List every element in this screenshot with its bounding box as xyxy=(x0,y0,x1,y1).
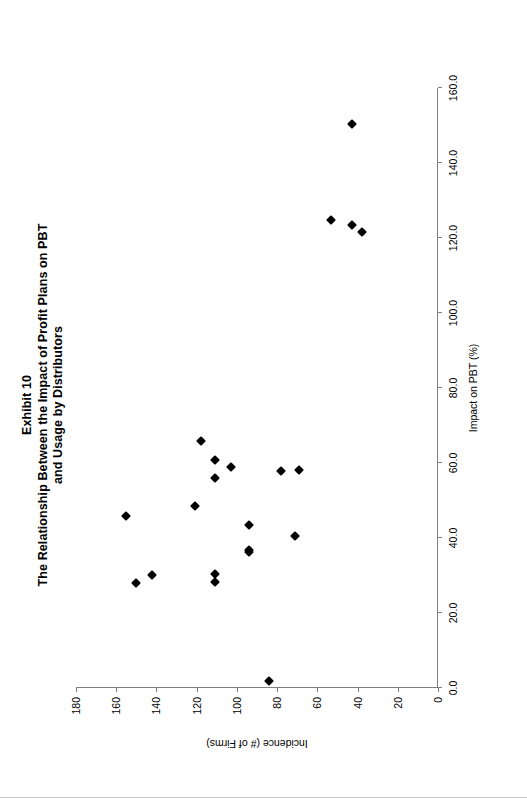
x-axis-tick xyxy=(438,312,442,313)
x-axis-title: Impact on PBT (%) xyxy=(467,344,479,433)
x-axis-tick-label: 100.0 xyxy=(447,300,459,326)
x-axis-tick-label: 40.0 xyxy=(447,528,459,548)
chart-title-line-1: Exhibit 10 xyxy=(20,15,36,795)
data-point-marker xyxy=(276,466,286,476)
data-point-marker xyxy=(209,455,219,465)
y-axis-tick xyxy=(397,688,398,692)
data-point-marker xyxy=(121,511,131,521)
y-axis-line xyxy=(76,687,438,688)
y-axis-tick-label: 180 xyxy=(70,697,82,715)
page-canvas: Exhibit 10 The Relationship Between the … xyxy=(0,0,527,810)
y-axis-title: Incidence (# of Firms) xyxy=(206,738,308,750)
x-axis-tick xyxy=(438,162,442,163)
data-point-marker xyxy=(225,462,235,472)
y-axis-tick xyxy=(76,688,77,692)
data-point-marker xyxy=(209,473,219,483)
chart-title-line-3: and Usage by Distributors xyxy=(51,15,67,795)
data-point-marker xyxy=(131,578,141,588)
y-axis-tick-label: 0 xyxy=(432,697,444,703)
x-axis-tick-label: 80.0 xyxy=(447,378,459,398)
x-axis-tick xyxy=(438,387,442,388)
y-axis-tick-label: 20 xyxy=(391,697,403,709)
y-axis-tick-label: 60 xyxy=(311,697,323,709)
data-point-marker xyxy=(264,676,274,686)
y-axis-tick xyxy=(317,688,318,692)
y-axis-tick-label: 160 xyxy=(110,697,122,715)
x-axis-tick xyxy=(438,462,442,463)
y-axis-tick-label: 40 xyxy=(351,697,363,709)
x-axis-tick-label: 60.0 xyxy=(447,453,459,473)
x-axis-tick xyxy=(438,237,442,238)
data-point-marker xyxy=(189,501,199,511)
y-axis-tick xyxy=(196,688,197,692)
x-axis-tick xyxy=(438,537,442,538)
data-point-marker xyxy=(290,531,300,541)
chart-figure: Exhibit 10 The Relationship Between the … xyxy=(14,15,514,795)
x-axis-tick-label: 20.0 xyxy=(447,603,459,623)
x-axis-tick-label: 160.0 xyxy=(447,75,459,101)
x-axis-tick-label: 120.0 xyxy=(447,225,459,251)
data-point-marker xyxy=(346,220,356,230)
y-axis-tick xyxy=(438,688,439,692)
y-axis-tick-label: 140 xyxy=(150,697,162,715)
data-point-marker xyxy=(147,571,157,581)
x-axis-line xyxy=(437,88,438,688)
chart-title-block: Exhibit 10 The Relationship Between the … xyxy=(20,15,67,795)
data-point-marker xyxy=(326,215,336,225)
chart-title-line-2: The Relationship Between the Impact of P… xyxy=(35,15,51,795)
data-point-marker xyxy=(346,119,356,129)
y-axis-tick-label: 120 xyxy=(190,697,202,715)
x-axis-tick xyxy=(438,612,442,613)
y-axis-tick-label: 100 xyxy=(230,697,242,715)
y-axis-tick xyxy=(116,688,117,692)
data-point-marker xyxy=(356,227,366,237)
y-axis-tick-label: 80 xyxy=(271,697,283,709)
data-point-marker xyxy=(195,436,205,446)
y-axis-tick xyxy=(357,688,358,692)
rotated-figure-wrapper: Exhibit 10 The Relationship Between the … xyxy=(14,15,514,795)
x-axis-tick xyxy=(438,87,442,88)
x-axis-tick-label: 140.0 xyxy=(447,150,459,176)
y-axis-tick xyxy=(156,688,157,692)
data-point-marker xyxy=(294,466,304,476)
plot-area: Impact on PBT (%) Incidence (# of Firms)… xyxy=(76,88,438,688)
data-point-marker xyxy=(244,520,254,530)
y-axis-tick xyxy=(236,688,237,692)
page-bottom-rule xyxy=(0,797,527,798)
y-axis-tick xyxy=(277,688,278,692)
x-axis-tick-label: 0.0 xyxy=(447,681,459,696)
data-point-marker xyxy=(209,577,219,587)
